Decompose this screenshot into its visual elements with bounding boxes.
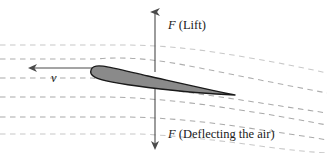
streamline-1 bbox=[0, 45, 327, 73]
diagram-canvas bbox=[0, 0, 327, 153]
velocity-arrow bbox=[28, 64, 93, 72]
lift-force-text: (Lift) bbox=[176, 18, 206, 32]
streamline-6 bbox=[0, 134, 327, 153]
deflecting-force-label: F (Deflecting the air) bbox=[168, 128, 275, 141]
lift-force-label: F (Lift) bbox=[168, 19, 206, 32]
streamlines-group bbox=[0, 45, 327, 153]
streamline-4 bbox=[0, 97, 327, 125]
deflecting-force-arrow bbox=[151, 82, 159, 150]
deflecting-force-text: (Deflecting the air) bbox=[176, 127, 275, 141]
streamline-5 bbox=[0, 117, 327, 140]
lift-force-symbol: F bbox=[168, 18, 176, 32]
deflecting-force-symbol: F bbox=[168, 127, 176, 141]
velocity-label: v bbox=[51, 72, 57, 85]
airfoil-lift-diagram: F (Lift) F (Deflecting the air) v bbox=[0, 0, 327, 153]
